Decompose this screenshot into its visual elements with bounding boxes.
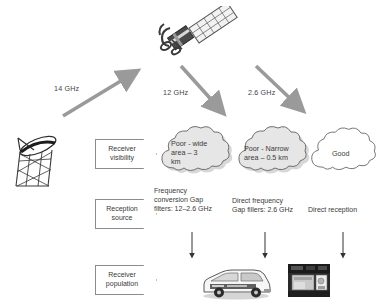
arrow-down-to-van bbox=[186, 231, 198, 261]
cloud-good: Good bbox=[308, 124, 380, 182]
callout-receiver-population[interactable]: Receiver population bbox=[95, 265, 157, 295]
cloud-poor-narrow-area-label: Poor - Narrow area – 0.5 km bbox=[244, 144, 308, 162]
source-direct-reception: Direct reception bbox=[308, 205, 380, 214]
arrow-down-direct bbox=[337, 231, 349, 261]
callout-receiver-population-label: Receiver population bbox=[106, 271, 138, 289]
satellite-icon bbox=[152, 6, 240, 64]
arrow-down-to-building bbox=[259, 231, 271, 261]
callout-receiver-visibility[interactable]: Receiver visibility bbox=[95, 139, 157, 169]
callout-reception-source[interactable]: Reception source bbox=[95, 199, 157, 229]
uplink-arrow-14ghz bbox=[55, 68, 145, 123]
cloud-poor-narrow-area: Poor - Narrow area – 0.5 km bbox=[235, 124, 311, 182]
receiver-building-photo bbox=[288, 264, 330, 297]
ground-station-dish-icon bbox=[8, 128, 70, 192]
receiver-van-photo bbox=[198, 265, 274, 303]
cloud-poor-wide-area-label: Poor - wide area – 3 km bbox=[171, 139, 229, 167]
diagram-canvas: 14 GHz 12 GHz 2.6 GHz bbox=[0, 0, 383, 307]
downlink-26ghz-label: 2.6 GHz bbox=[248, 88, 275, 97]
source-frequency-conversion: Frequency conversion Gap filters: 12–2.6… bbox=[154, 186, 226, 213]
uplink-14ghz-label: 14 GHz bbox=[54, 84, 79, 93]
source-direct-frequency: Direct frequency Gap fillers: 2.6 GHz bbox=[232, 196, 308, 214]
callout-reception-source-label: Reception source bbox=[106, 205, 138, 223]
cloud-good-label: Good bbox=[332, 149, 372, 158]
cloud-poor-wide-area: Poor - wide area – 3 km bbox=[158, 124, 234, 182]
callout-receiver-visibility-label: Receiver visibility bbox=[108, 145, 136, 163]
downlink-12ghz-label: 12 GHz bbox=[163, 88, 188, 97]
